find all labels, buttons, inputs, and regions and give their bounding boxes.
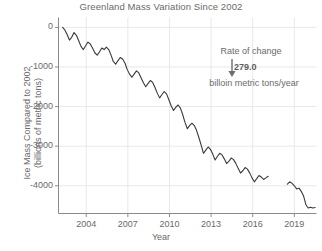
y-tick-label: -3000 — [9, 140, 53, 150]
y-tick-label: -2000 — [9, 101, 53, 111]
annotation-rate-value: 279.0 — [234, 62, 257, 72]
x-tick-label: 2019 — [274, 219, 314, 229]
annotation-rate-units: billoin metric tons/year — [190, 78, 318, 88]
x-tick-label: 2016 — [233, 219, 273, 229]
x-tick-label: 2004 — [66, 219, 106, 229]
y-tick-label: 0 — [9, 21, 53, 31]
plot-canvas — [0, 0, 322, 251]
chart-container: Greenland Mass Variation Since 2002 Ice … — [0, 0, 322, 251]
y-tick-label: -4000 — [9, 180, 53, 190]
y-tick-label: -1000 — [9, 61, 53, 71]
x-axis-title: Year — [0, 232, 322, 242]
x-tick-label: 2007 — [108, 219, 148, 229]
x-tick-label: 2013 — [191, 219, 231, 229]
x-tick-label: 2010 — [149, 219, 189, 229]
annotation-rate-label: Rate of change — [196, 46, 306, 56]
